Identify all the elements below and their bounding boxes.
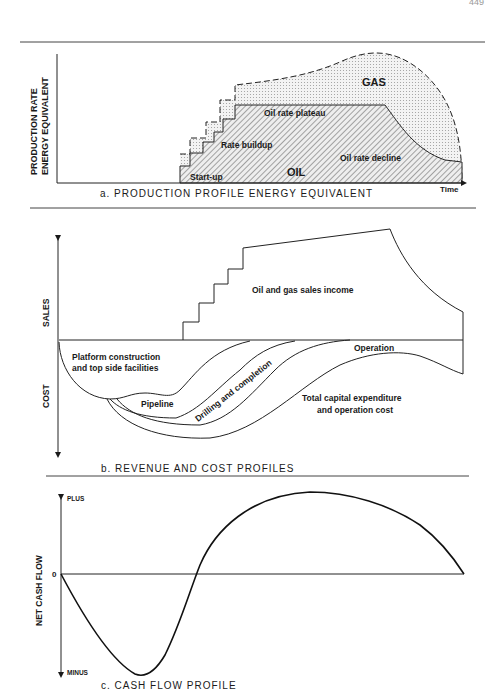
label-sales-income: Oil and gas sales income	[252, 285, 354, 295]
label-platform-2: and top side facilities	[72, 363, 159, 373]
tick-plus: PLUS	[67, 495, 85, 502]
y-label-sales: SALES	[41, 298, 51, 327]
cash-flow-curve	[61, 492, 464, 675]
label-time: Time	[440, 185, 459, 194]
y-label-net-cash-flow: NET CASH FLOW	[34, 554, 44, 626]
y-label-cost: COST	[41, 384, 51, 408]
y-label-energy-equivalent: ENERGY EQUIVALENT	[40, 77, 50, 175]
label-platform-1: Platform construction	[72, 352, 160, 362]
label-pipeline: Pipeline	[141, 399, 174, 409]
label-start-up: Start-up	[190, 172, 223, 182]
label-oil-rate-decline: Oil rate decline	[340, 153, 401, 163]
label-oil-rate-plateau: Oil rate plateau	[264, 108, 325, 118]
label-total-2: and operation cost	[317, 405, 393, 415]
label-total-1: Total capital expenditure	[302, 393, 402, 403]
caption-a: a. PRODUCTION PROFILE ENERGY EQUIVALENT	[100, 188, 373, 199]
label-operation: Operation	[354, 343, 394, 353]
label-oil: OIL	[287, 166, 306, 178]
panel-c-cash-flow: PLUS 0 MINUS NET CASH FLOW c. CASH FLOW …	[34, 492, 464, 691]
label-rate-buildup: Rate buildup	[221, 140, 272, 150]
caption-b: b. REVENUE AND COST PROFILES	[101, 463, 294, 474]
tick-minus: MINUS	[67, 669, 89, 676]
figure: PRODUCTION RATE ENERGY EQUIVALENT GAS Oi…	[0, 0, 496, 698]
y-label-production-rate: PRODUCTION RATE	[29, 88, 39, 175]
caption-c: c. CASH FLOW PROFILE	[101, 680, 237, 691]
panel-b-revenue-cost: SALES COST Oil and gas sales income Plat…	[41, 229, 463, 474]
panel-a-production-profile: PRODUCTION RATE ENERGY EQUIVALENT GAS Oi…	[29, 53, 464, 199]
label-gas: GAS	[362, 76, 386, 88]
tick-zero: 0	[52, 570, 57, 579]
label-drilling-completion: Drilling and completion	[193, 358, 274, 424]
